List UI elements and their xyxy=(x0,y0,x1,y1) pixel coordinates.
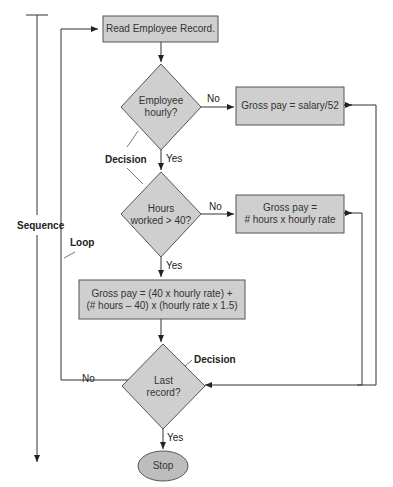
overtime-pay-line2: (# hours – 40) x (hourly rate x 1.5) xyxy=(79,300,245,312)
employee-hourly-line1: Employee xyxy=(121,95,201,107)
hours-worked-label: Hours worked > 40? xyxy=(121,203,201,227)
employee-hourly-line2: hourly? xyxy=(121,107,201,119)
last-record-label: Last record? xyxy=(122,375,205,399)
loop-annotation: Loop xyxy=(70,237,94,249)
hours-worked-line1: Hours xyxy=(121,203,201,215)
hourly-no-label: No xyxy=(207,93,220,105)
hours-worked-line2: worked > 40? xyxy=(121,215,201,227)
last-no-label: No xyxy=(82,373,95,385)
salary-label: Gross pay = salary/52 xyxy=(236,100,344,112)
overtime-pay-label: Gross pay = (40 x hourly rate) + (# hour… xyxy=(79,288,245,312)
stop-label: Stop xyxy=(138,460,188,472)
hours-yes-label: Yes xyxy=(166,260,182,272)
sequence-arrow xyxy=(26,15,48,462)
read-record-label: Read Employee Record. xyxy=(103,23,218,35)
last-record-line1: Last xyxy=(122,375,205,387)
decision-annotation-2: Decision xyxy=(194,354,236,366)
decision-annotation-1: Decision xyxy=(105,154,147,166)
regular-pay-label: Gross pay = # hours x hourly rate xyxy=(236,202,344,226)
last-yes-label: Yes xyxy=(167,432,183,444)
employee-hourly-label: Employee hourly? xyxy=(121,95,201,119)
overtime-pay-line1: Gross pay = (40 x hourly rate) + xyxy=(79,288,245,300)
hourly-yes-label: Yes xyxy=(166,153,182,165)
regular-pay-line1: Gross pay = xyxy=(236,202,344,214)
sequence-annotation: Sequence xyxy=(17,220,64,232)
last-record-line2: record? xyxy=(122,387,205,399)
flowchart-canvas xyxy=(0,0,393,487)
regular-pay-line2: # hours x hourly rate xyxy=(236,214,344,226)
hours-no-label: No xyxy=(209,201,222,213)
